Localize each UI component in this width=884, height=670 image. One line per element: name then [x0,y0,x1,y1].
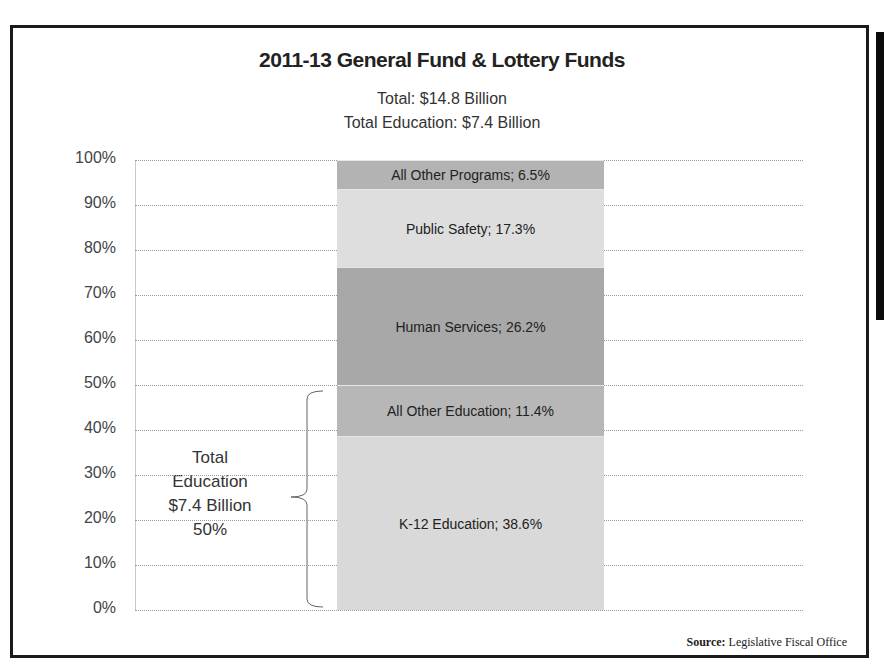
y-tick-label: 20% [40,509,116,527]
annotation-line-1: Total [140,446,280,470]
bar-segment-all-other-education: All Other Education; 11.4% [337,385,604,436]
chart-title: 2011-13 General Fund & Lottery Funds [0,48,884,72]
chart-subtitle-education: Total Education: $7.4 Billion [0,114,884,132]
annotation-line-4: 50% [140,518,280,542]
bar-segment-human-services: Human Services; 26.2% [337,267,604,385]
y-tick-label: 30% [40,464,116,482]
source-text: Legislative Fiscal Office [726,635,847,649]
segment-label: All Other Programs; 6.5% [391,167,550,183]
segment-label: All Other Education; 11.4% [387,403,554,419]
y-tick-label: 60% [40,329,116,347]
source-label: Source: [686,635,725,649]
chart-subtitle-total: Total: $14.8 Billion [0,90,884,108]
y-tick-label: 100% [40,149,116,167]
segment-label: Public Safety; 17.3% [406,221,535,237]
source-note: Source: Legislative Fiscal Office [686,635,847,650]
y-tick-label: 40% [40,419,116,437]
gridline [135,610,803,611]
bar-segment-public-safety: Public Safety; 17.3% [337,189,604,267]
y-tick-label: 0% [40,599,116,617]
y-tick-label: 50% [40,374,116,392]
annotation-line-2: Education [140,470,280,494]
y-tick-label: 90% [40,194,116,212]
segment-label: K-12 Education; 38.6% [399,516,542,532]
total-education-annotation: Total Education $7.4 Billion 50% [140,446,280,542]
y-tick-label: 70% [40,284,116,302]
edge-black-bar [876,32,884,320]
y-tick-label: 80% [40,239,116,257]
segment-label: Human Services; 26.2% [395,319,545,335]
bar-segment-k-12-education: K-12 Education; 38.6% [337,436,604,610]
y-tick-label: 10% [40,554,116,572]
brace-icon [285,389,325,609]
annotation-line-3: $7.4 Billion [140,494,280,518]
bar-segment-all-other-programs: All Other Programs; 6.5% [337,160,604,189]
